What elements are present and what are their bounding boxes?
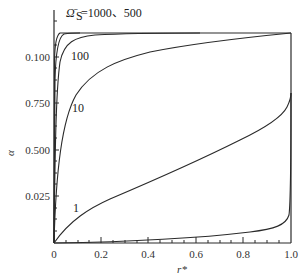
y-tick-label: 0.500 <box>25 144 50 156</box>
chart: 0.100 0.750 0.500 0.025 0 0.2 0.4 0.6 0.… <box>0 0 305 279</box>
curve-1 <box>54 93 291 243</box>
svg-text:=1000、500: =1000、500 <box>81 6 142 20</box>
y-tick-label: 0.750 <box>25 97 50 109</box>
x-tick-label: 0.6 <box>189 248 203 260</box>
y-axis-title: α <box>4 150 16 156</box>
x-tick-label: 0 <box>51 248 57 260</box>
curve-10 <box>54 33 291 243</box>
x-tick-label: 0.4 <box>141 248 155 260</box>
y-tick-label: 0.100 <box>25 51 50 63</box>
curve-label-1: 1 <box>73 201 79 215</box>
x-tick-label: 0.8 <box>236 248 250 260</box>
x-tick-label: 1.0 <box>284 248 298 260</box>
curve-lower <box>54 93 291 243</box>
curve-label-100: 100 <box>71 49 89 63</box>
y-tick-label: 0.025 <box>25 190 50 202</box>
curve-1000 <box>54 33 291 243</box>
x-axis-title: r* <box>177 263 187 275</box>
x-tick-label: 0.2 <box>94 248 108 260</box>
curve-label-10: 10 <box>72 101 84 115</box>
annotation-omega: Ω̄ S =1000、500 <box>66 6 142 23</box>
